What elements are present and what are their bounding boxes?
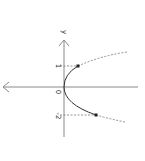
parabola-solid-segment xyxy=(64,66,96,115)
vertical-axis-label: y xyxy=(60,30,68,34)
parabola-lower-extension xyxy=(96,115,125,122)
parabola-diagram: y 1 0 -2 xyxy=(0,0,145,161)
upper-point xyxy=(77,65,80,68)
horizontal-axis xyxy=(3,82,138,92)
lower-point xyxy=(95,114,98,117)
parabola-upper-extension xyxy=(78,52,127,66)
tick-label-origin: 0 xyxy=(54,90,62,94)
tick-label-lower: -2 xyxy=(54,113,62,120)
